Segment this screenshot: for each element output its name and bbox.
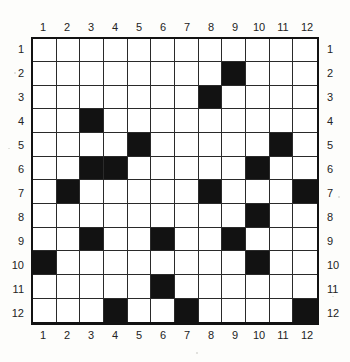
- grid-cell-r5-c3[interactable]: [80, 133, 104, 157]
- grid-cell-r8-c10[interactable]: [246, 204, 270, 228]
- grid-cell-r11-c3[interactable]: [80, 275, 104, 299]
- grid-cell-r3-c6[interactable]: [151, 86, 175, 110]
- grid-cell-r9-c6[interactable]: [151, 228, 175, 252]
- grid-cell-r2-c4[interactable]: [104, 62, 128, 86]
- grid-cell-r3-c1[interactable]: [33, 86, 57, 110]
- grid-cell-r2-c2[interactable]: [57, 62, 81, 86]
- grid-cell-r2-c1[interactable]: [33, 62, 57, 86]
- grid-cell-r4-c1[interactable]: [33, 109, 57, 133]
- grid-cell-r11-c4[interactable]: [104, 275, 128, 299]
- grid-cell-r12-c9[interactable]: [222, 299, 246, 323]
- grid-cell-r6-c2[interactable]: [57, 157, 81, 181]
- grid-cell-r3-c12[interactable]: [293, 86, 317, 110]
- grid-cell-r11-c10[interactable]: [246, 275, 270, 299]
- grid-cell-r11-c2[interactable]: [57, 275, 81, 299]
- grid-cell-r7-c2[interactable]: [57, 180, 81, 204]
- grid-cell-r6-c4[interactable]: [104, 157, 128, 181]
- grid-cell-r9-c7[interactable]: [175, 228, 199, 252]
- grid-cell-r5-c7[interactable]: [175, 133, 199, 157]
- grid-cell-r6-c6[interactable]: [151, 157, 175, 181]
- grid-cell-r6-c3[interactable]: [80, 157, 104, 181]
- grid-cell-r5-c11[interactable]: [270, 133, 294, 157]
- grid-cell-r7-c7[interactable]: [175, 180, 199, 204]
- grid-cell-r6-c9[interactable]: [222, 157, 246, 181]
- grid-cell-r7-c12[interactable]: [293, 180, 317, 204]
- grid-cell-r3-c7[interactable]: [175, 86, 199, 110]
- grid-cell-r8-c9[interactable]: [222, 204, 246, 228]
- grid-cell-r10-c1[interactable]: [33, 251, 57, 275]
- grid-cell-r3-c5[interactable]: [128, 86, 152, 110]
- grid-cell-r2-c6[interactable]: [151, 62, 175, 86]
- grid-cell-r4-c5[interactable]: [128, 109, 152, 133]
- grid-cell-r9-c5[interactable]: [128, 228, 152, 252]
- grid-cell-r12-c2[interactable]: [57, 299, 81, 323]
- grid-cell-r8-c3[interactable]: [80, 204, 104, 228]
- grid-cell-r4-c11[interactable]: [270, 109, 294, 133]
- grid-cell-r1-c2[interactable]: [57, 39, 81, 63]
- grid-cell-r5-c2[interactable]: [57, 133, 81, 157]
- grid-cell-r7-c5[interactable]: [128, 180, 152, 204]
- grid-cell-r5-c10[interactable]: [246, 133, 270, 157]
- grid-cell-r12-c4[interactable]: [104, 299, 128, 323]
- grid-cell-r7-c8[interactable]: [199, 180, 223, 204]
- grid-cell-r4-c8[interactable]: [199, 109, 223, 133]
- grid-cell-r11-c5[interactable]: [128, 275, 152, 299]
- grid-cell-r7-c10[interactable]: [246, 180, 270, 204]
- grid-cell-r12-c8[interactable]: [199, 299, 223, 323]
- grid-cell-r6-c5[interactable]: [128, 157, 152, 181]
- grid-cell-r1-c1[interactable]: [33, 39, 57, 63]
- grid-cell-r2-c3[interactable]: [80, 62, 104, 86]
- grid-cell-r4-c4[interactable]: [104, 109, 128, 133]
- grid-cell-r6-c11[interactable]: [270, 157, 294, 181]
- grid-cell-r10-c11[interactable]: [270, 251, 294, 275]
- grid-cell-r2-c8[interactable]: [199, 62, 223, 86]
- grid-cell-r12-c5[interactable]: [128, 299, 152, 323]
- grid-cell-r11-c7[interactable]: [175, 275, 199, 299]
- grid-cell-r1-c9[interactable]: [222, 39, 246, 63]
- grid-cell-r5-c5[interactable]: [128, 133, 152, 157]
- grid-cell-r5-c1[interactable]: [33, 133, 57, 157]
- grid-cell-r9-c9[interactable]: [222, 228, 246, 252]
- grid-cell-r10-c9[interactable]: [222, 251, 246, 275]
- grid-cell-r7-c4[interactable]: [104, 180, 128, 204]
- grid-cell-r11-c8[interactable]: [199, 275, 223, 299]
- grid-cell-r4-c12[interactable]: [293, 109, 317, 133]
- grid-cell-r3-c8[interactable]: [199, 86, 223, 110]
- grid-cell-r11-c9[interactable]: [222, 275, 246, 299]
- grid-cell-r2-c9[interactable]: [222, 62, 246, 86]
- grid-cell-r8-c8[interactable]: [199, 204, 223, 228]
- grid-cell-r11-c1[interactable]: [33, 275, 57, 299]
- grid-cell-r6-c12[interactable]: [293, 157, 317, 181]
- grid-cell-r10-c5[interactable]: [128, 251, 152, 275]
- grid-cell-r10-c7[interactable]: [175, 251, 199, 275]
- grid-cell-r2-c11[interactable]: [270, 62, 294, 86]
- grid-cell-r8-c7[interactable]: [175, 204, 199, 228]
- grid-cell-r10-c10[interactable]: [246, 251, 270, 275]
- grid-cell-r9-c8[interactable]: [199, 228, 223, 252]
- grid-cell-r10-c2[interactable]: [57, 251, 81, 275]
- grid-cell-r7-c6[interactable]: [151, 180, 175, 204]
- grid-cell-r4-c3[interactable]: [80, 109, 104, 133]
- grid-cell-r8-c11[interactable]: [270, 204, 294, 228]
- grid-cell-r3-c2[interactable]: [57, 86, 81, 110]
- grid-cell-r9-c12[interactable]: [293, 228, 317, 252]
- grid-cell-r2-c7[interactable]: [175, 62, 199, 86]
- grid-cell-r5-c9[interactable]: [222, 133, 246, 157]
- grid-cell-r1-c11[interactable]: [270, 39, 294, 63]
- grid-cell-r11-c11[interactable]: [270, 275, 294, 299]
- grid-cell-r1-c4[interactable]: [104, 39, 128, 63]
- grid-cell-r5-c12[interactable]: [293, 133, 317, 157]
- grid-cell-r4-c9[interactable]: [222, 109, 246, 133]
- grid-cell-r9-c3[interactable]: [80, 228, 104, 252]
- grid-cell-r10-c4[interactable]: [104, 251, 128, 275]
- grid-cell-r2-c10[interactable]: [246, 62, 270, 86]
- grid-cell-r11-c6[interactable]: [151, 275, 175, 299]
- grid-cell-r1-c7[interactable]: [175, 39, 199, 63]
- grid-cell-r7-c9[interactable]: [222, 180, 246, 204]
- grid-cell-r4-c10[interactable]: [246, 109, 270, 133]
- grid-cell-r3-c4[interactable]: [104, 86, 128, 110]
- grid-cell-r6-c10[interactable]: [246, 157, 270, 181]
- grid-cell-r10-c12[interactable]: [293, 251, 317, 275]
- grid-cell-r12-c11[interactable]: [270, 299, 294, 323]
- grid-cell-r3-c9[interactable]: [222, 86, 246, 110]
